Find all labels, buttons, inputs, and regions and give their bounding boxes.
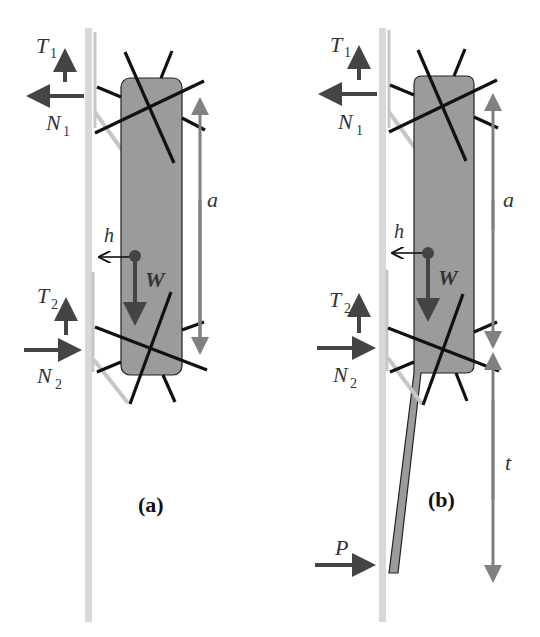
label-N2-subscript: 2 (55, 377, 62, 392)
center-of-gravity-dot (422, 247, 434, 259)
pole (379, 28, 386, 622)
pole-climber-diagram: a T 1 N 1 T 2 N 2 h W (a) (0, 0, 540, 637)
label-T2: T (329, 287, 343, 312)
panel-a: a T 1 N 1 T 2 N 2 h W (a) (24, 28, 218, 622)
center-of-gravity-dot (129, 250, 141, 262)
label-T2-subscript: 2 (51, 297, 58, 312)
label-T2-subscript: 2 (344, 301, 351, 316)
label-T1-subscript: 1 (50, 46, 57, 61)
caption-b: (b) (428, 487, 455, 512)
label-N1: N (45, 110, 62, 135)
label-N1: N (337, 109, 354, 134)
label-a: a (207, 187, 218, 212)
label-t: t (505, 450, 512, 475)
label-N2: N (332, 362, 349, 387)
panel-b: a t T 1 N 1 T 2 N 2 P h W (b) (315, 28, 514, 622)
label-T1-subscript: 1 (344, 45, 351, 60)
label-h: h (104, 224, 114, 246)
label-W: W (145, 267, 166, 292)
label-W: W (438, 265, 459, 290)
label-T1: T (330, 32, 344, 57)
caption-a: (a) (138, 492, 164, 517)
label-T2: T (37, 283, 51, 308)
label-N2-subscript: 2 (350, 376, 357, 391)
label-T1: T (36, 33, 50, 58)
label-N1-subscript: 1 (356, 123, 363, 138)
label-P: P (334, 535, 348, 560)
label-N1-subscript: 1 (63, 124, 70, 139)
label-h: h (394, 220, 404, 242)
pole (85, 28, 92, 622)
climber-body (121, 78, 182, 375)
label-a: a (503, 187, 514, 212)
label-N2: N (36, 363, 53, 388)
